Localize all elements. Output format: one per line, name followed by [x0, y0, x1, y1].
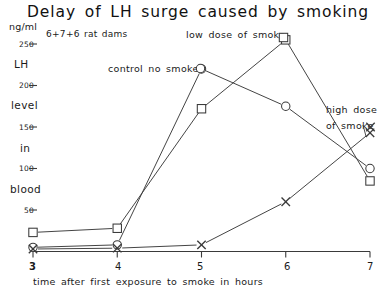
series-segment	[122, 245, 196, 248]
annotation-markers	[196, 33, 374, 131]
marker-circle-x7	[366, 164, 374, 172]
marker-square-x3	[29, 228, 37, 236]
marker-square-x7	[366, 177, 374, 185]
series-segment	[38, 245, 112, 247]
marker-square-x4	[113, 224, 121, 232]
series-segment	[290, 136, 367, 199]
annotation-leader-2	[363, 125, 366, 136]
series-segment	[38, 229, 112, 233]
legend-marker-square	[279, 33, 287, 41]
series-segment	[206, 71, 281, 104]
chart-plot-area	[0, 0, 387, 295]
series-segment	[119, 73, 199, 240]
marker-square-x5	[197, 105, 205, 113]
series-control-no-smoke	[29, 65, 374, 252]
series-segment	[38, 248, 112, 249]
series-segment	[120, 113, 198, 224]
marker-circle-x6	[282, 102, 290, 110]
series-segment	[288, 44, 367, 177]
legend-marker-circle	[196, 64, 204, 72]
series-segment	[290, 109, 366, 165]
series-high-dose-of-smoke	[29, 129, 374, 254]
series-segment	[205, 43, 282, 106]
series-segment	[206, 204, 281, 243]
chart-canvas: Delay of LH surge caused by smoking 6+7+…	[0, 0, 387, 295]
marker-circle-x3	[29, 243, 37, 251]
